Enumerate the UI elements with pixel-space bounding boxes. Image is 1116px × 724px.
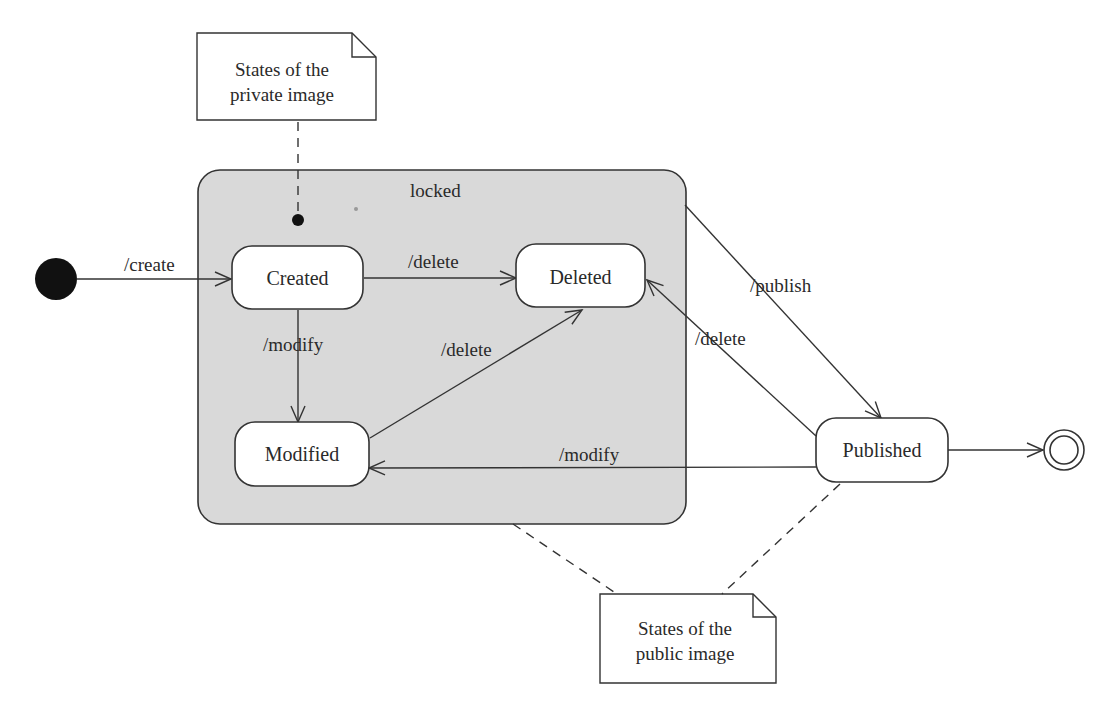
transition-label-create: /create	[124, 255, 175, 274]
final-state[interactable]	[1044, 430, 1084, 470]
state-modified-label: Modified	[235, 444, 369, 464]
transition-label-modified-deleted: /delete	[441, 340, 492, 359]
note-public-anchor-line-locked	[513, 524, 617, 594]
transition-publish[interactable]	[685, 205, 881, 418]
speck	[354, 207, 358, 211]
transition-label-published-deleted: /delete	[695, 329, 746, 348]
composite-state-label: locked	[410, 181, 461, 200]
state-created-label: Created	[232, 268, 363, 288]
transition-label-published-modified: /modify	[559, 445, 619, 464]
state-deleted-label: Deleted	[516, 267, 645, 287]
note-private-line2: private image	[197, 83, 367, 108]
transition-label-created-modified: /modify	[263, 335, 323, 354]
note-private-text: States of the private image	[197, 58, 367, 107]
note-public-anchor-line-published	[722, 484, 840, 594]
note-private-line1: States of the	[197, 58, 367, 83]
note-public-text: States of the public image	[600, 617, 770, 666]
initial-state[interactable]	[35, 258, 77, 300]
state-diagram-canvas	[0, 0, 1116, 724]
initial-pseudostate-inner	[292, 214, 304, 226]
note-public-line2: public image	[600, 642, 770, 667]
transition-label-created-deleted: /delete	[408, 252, 459, 271]
transition-label-publish: /publish	[750, 276, 811, 295]
note-public-line1: States of the	[600, 617, 770, 642]
state-published-label: Published	[816, 440, 948, 460]
transition-published-modified[interactable]	[369, 467, 816, 468]
